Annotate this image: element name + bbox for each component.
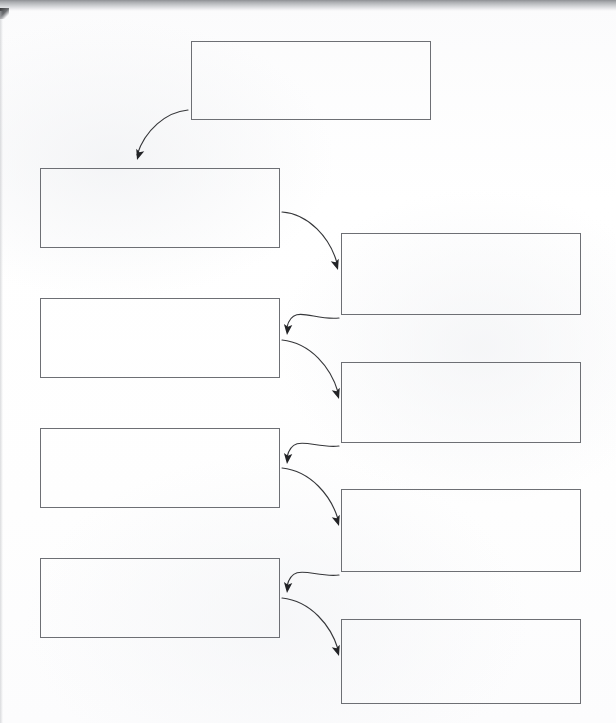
box-right-2[interactable] <box>341 362 581 443</box>
arrow-left-3-to-right-3 <box>282 468 343 527</box>
arrow-left-4-to-right-4 <box>282 598 343 657</box>
arrow-right-1-to-left-2 <box>283 314 339 335</box>
flowchart-page <box>0 0 616 723</box>
box-left-2[interactable] <box>40 298 280 378</box>
scan-edge-corner <box>0 8 9 19</box>
scan-edge-top <box>0 0 616 11</box>
box-right-4[interactable] <box>341 619 581 704</box>
scan-edge-left <box>0 11 3 723</box>
box-right-1[interactable] <box>341 233 581 315</box>
arrow-top-to-left-1 <box>133 110 188 161</box>
arrow-left-2-to-right-2 <box>282 340 343 400</box>
box-left-1[interactable] <box>40 168 280 248</box>
arrow-right-3-to-left-4 <box>283 572 339 593</box>
box-right-3[interactable] <box>341 489 581 572</box>
arrow-right-2-to-left-3 <box>283 443 339 464</box>
arrow-left-1-to-right-1 <box>282 212 342 271</box>
box-top[interactable] <box>191 41 431 120</box>
box-left-4[interactable] <box>40 558 280 638</box>
box-left-3[interactable] <box>40 428 280 508</box>
